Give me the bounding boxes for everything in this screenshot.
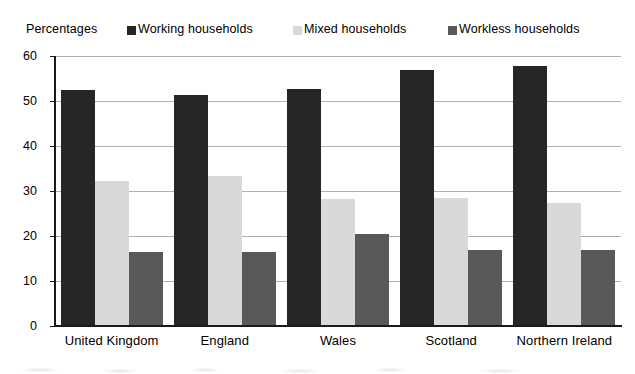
bar — [129, 252, 163, 325]
legend-item-working-households: Working households — [127, 22, 253, 36]
bar — [242, 252, 276, 325]
page-edge-artifact — [0, 366, 635, 374]
bar — [208, 176, 242, 325]
legend-item-label: Working households — [138, 22, 253, 36]
bar — [581, 250, 615, 325]
y-axis-tick-label: 50 — [0, 94, 37, 108]
bars-layer — [55, 56, 621, 326]
bar — [468, 250, 502, 325]
plot-area: 0102030405060 — [55, 56, 621, 326]
chart-legend: Percentages Working households Mixed hou… — [0, 22, 635, 42]
x-axis-category-labels: United KingdomEnglandWalesScotlandNorthe… — [55, 333, 621, 353]
x-axis-label: United Kingdom — [55, 333, 168, 348]
bar — [355, 234, 389, 325]
bar-chart: Percentages Working households Mixed hou… — [0, 0, 635, 374]
legend-item-workless-households: Workless households — [448, 22, 579, 36]
x-axis-label: Northern Ireland — [508, 333, 621, 348]
bar — [513, 66, 547, 325]
legend-item-label: Mixed households — [304, 22, 406, 36]
y-axis-tick-label: 10 — [0, 274, 37, 288]
y-axis-tick-label: 30 — [0, 184, 37, 198]
y-axis-tick-label: 0 — [0, 319, 37, 333]
x-axis-label: Wales — [281, 333, 394, 348]
bar — [547, 203, 581, 325]
bar — [434, 198, 468, 325]
y-axis-tick-label: 20 — [0, 229, 37, 243]
legend-item-mixed-households: Mixed households — [293, 22, 406, 36]
bar — [400, 70, 434, 325]
x-axis-label: Scotland — [395, 333, 508, 348]
bar — [61, 90, 95, 325]
x-axis-label: England — [168, 333, 281, 348]
legend-item-label: Workless households — [459, 22, 579, 36]
y-axis-tick-label: 60 — [0, 49, 37, 63]
bar — [174, 95, 208, 325]
legend-title: Percentages — [26, 22, 97, 36]
square-marker-icon — [448, 26, 457, 35]
bar — [321, 199, 355, 325]
square-marker-icon — [127, 26, 136, 35]
bar — [95, 181, 129, 325]
y-axis-tick-label: 40 — [0, 139, 37, 153]
square-marker-icon — [293, 26, 302, 35]
bar — [287, 89, 321, 325]
